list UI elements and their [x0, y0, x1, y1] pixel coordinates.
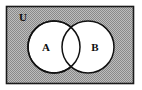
- venn-diagram-canvas: U A B: [0, 0, 142, 90]
- universal-set-label: U: [19, 11, 27, 23]
- set-b-circle: [62, 21, 114, 73]
- venn-diagram-figure: U A B: [0, 0, 142, 90]
- set-a-label: A: [42, 41, 50, 53]
- set-b-label: B: [91, 41, 99, 53]
